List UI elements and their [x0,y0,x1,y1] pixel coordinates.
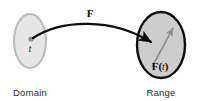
function-mapping-figure: t F(t) F Domain Range [0,0,198,101]
range-vector-label-paren-close: ) [165,60,169,73]
domain-point-label: t [29,44,32,54]
mapping-arrow-curve [33,24,151,42]
domain-caption: Domain [13,87,47,98]
mapping-arrow-label: F [87,7,94,19]
range-caption: Range [147,87,176,98]
figure-canvas: t F(t) F Domain Range [0,0,198,101]
range-vector-label: F(t) [152,60,169,73]
